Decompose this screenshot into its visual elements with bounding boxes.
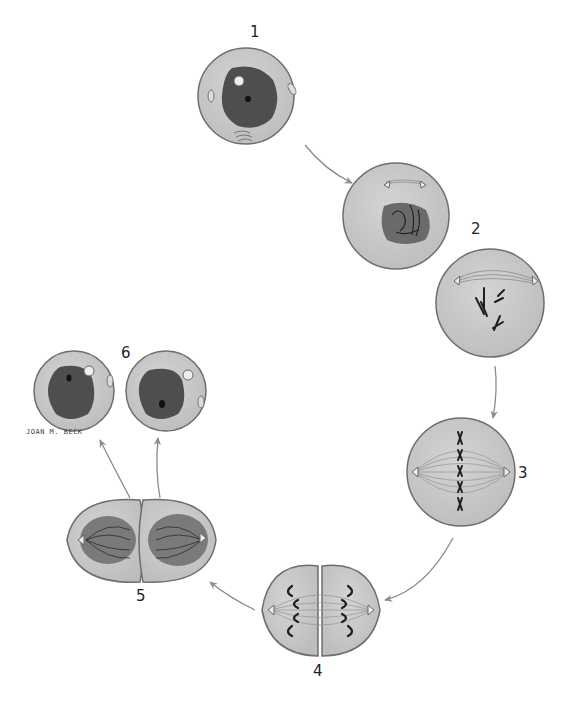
cell-stage-3	[407, 418, 515, 526]
stage-label-6: 6	[121, 344, 131, 362]
centriole	[234, 76, 244, 86]
cell-stage-6b	[126, 351, 206, 431]
cell-stage-1	[198, 48, 298, 144]
arrow-4-to-5	[210, 582, 255, 610]
stage-label-5: 5	[136, 587, 146, 605]
mitochondrion	[198, 396, 204, 408]
stage-label-1: 1	[250, 23, 260, 41]
nucleolus	[245, 96, 251, 102]
mitochondrion	[208, 90, 214, 102]
stage-label-2: 2	[471, 220, 481, 238]
cell-stage-4	[262, 565, 380, 656]
cell-stage-5	[67, 500, 216, 583]
stage-label-4: 4	[313, 662, 323, 680]
arrow-2-to-3	[493, 366, 496, 418]
arrow-5-to-6b	[157, 438, 160, 498]
centriole	[84, 366, 94, 376]
cell-stage-2b	[436, 249, 544, 357]
stage-label-3: 3	[518, 464, 528, 482]
centriole	[183, 370, 193, 380]
cell-stage-6a	[34, 351, 114, 431]
arrow-3-to-4	[385, 538, 453, 600]
mitosis-diagram	[0, 0, 581, 714]
arrow-5-to-6a	[100, 440, 130, 498]
cell-stage-2a	[343, 163, 449, 269]
reforming-nucleus	[80, 516, 136, 564]
arrow-1-to-2	[305, 145, 352, 183]
artist-credit: JOAN M. BECK	[26, 428, 83, 436]
mitochondrion	[107, 375, 113, 387]
